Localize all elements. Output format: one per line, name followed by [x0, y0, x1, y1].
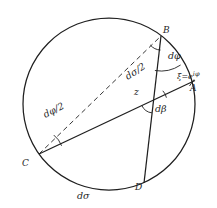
- label-xi-base: ξ=e: [177, 72, 193, 81]
- label-xi-equation: ξ=eiφ: [177, 70, 200, 82]
- label-z: z: [133, 87, 139, 97]
- chord-CA: [39, 81, 195, 155]
- figure-canvas: B A C D z dφ dσ/2 dβ dφ/2 dσ ξ=eiφ: [0, 0, 217, 208]
- angle-arc-z-lower: [142, 106, 152, 113]
- angle-arc-B-large: [155, 65, 181, 71]
- label-A: A: [189, 83, 197, 93]
- label-d-phi-half: dφ/2: [41, 100, 66, 120]
- label-B: B: [162, 25, 170, 35]
- label-C: C: [22, 158, 29, 168]
- label-d-beta: dβ: [155, 103, 167, 114]
- geometry-figure: B A C D z dφ dσ/2 dβ dφ/2 dσ ξ=eiφ: [0, 0, 217, 208]
- label-xi-exponent: iφ: [193, 70, 200, 78]
- dashed-chord-CB: [39, 36, 161, 154]
- label-D: D: [134, 182, 142, 192]
- label-d-sigma-half: dσ/2: [123, 61, 147, 82]
- label-d-sigma: dσ: [77, 190, 90, 201]
- label-d-phi: dφ: [168, 50, 181, 61]
- main-circle: [23, 18, 195, 190]
